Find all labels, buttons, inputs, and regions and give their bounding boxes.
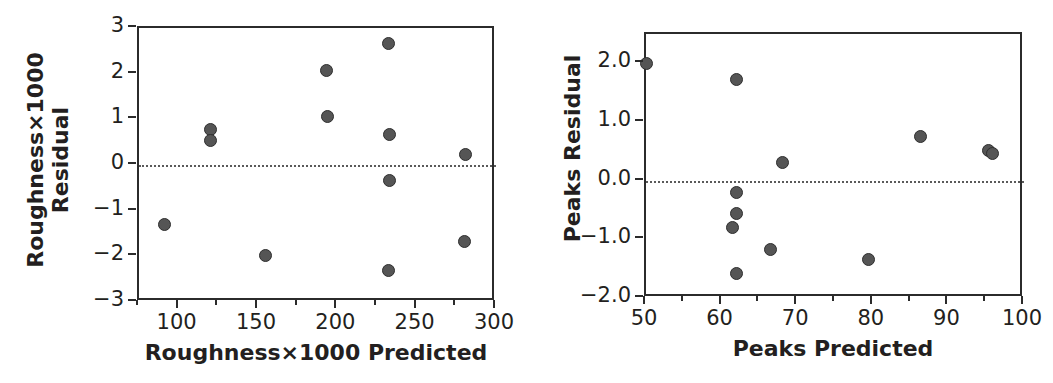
y-axis-title-peaks: Peaks Residual (560, 0, 585, 309)
x-axis-title-peaks: Peaks Predicted (533, 337, 1053, 361)
x-tick (176, 300, 178, 308)
y-tick (128, 299, 136, 301)
y-tick-label: −2.0 (539, 285, 631, 306)
y-tick (635, 178, 643, 180)
residual-plot-figure: 3210−1−2−3100150200250300 Roughness×1000… (0, 0, 1053, 383)
x-tick (1021, 296, 1023, 304)
x-tick (870, 296, 872, 304)
y-tick (635, 236, 643, 238)
y-tick (128, 116, 136, 118)
y-tick-label: 0.0 (539, 168, 631, 189)
data-point (321, 110, 334, 123)
data-point (726, 221, 739, 234)
x-axis-title-roughness: Roughness×1000 Predicted (16, 341, 616, 365)
y-tick-label: 2.0 (539, 50, 631, 71)
data-point (383, 174, 396, 187)
data-point (458, 235, 471, 248)
y-axis-title-line1: Roughness×1000 (23, 52, 48, 268)
plot-area-roughness (137, 26, 494, 300)
x-tick-minor (681, 296, 683, 301)
data-point (382, 264, 395, 277)
zero-reference-line (139, 165, 496, 167)
x-tick-minor (295, 300, 297, 305)
data-point (459, 148, 472, 161)
data-point (730, 186, 743, 199)
x-tick-minor (374, 300, 376, 305)
x-tick-minor (756, 296, 758, 301)
x-tick-label: 100 (972, 308, 1053, 329)
y-tick (128, 71, 136, 73)
y-tick (635, 295, 643, 297)
y-tick (128, 25, 136, 27)
x-tick (334, 300, 336, 308)
y-tick (635, 60, 643, 62)
x-tick (643, 296, 645, 304)
x-tick (493, 300, 495, 308)
x-tick-minor (215, 300, 217, 305)
x-tick (719, 296, 721, 304)
y-tick (128, 253, 136, 255)
y-tick-label: −1.0 (539, 226, 631, 247)
data-point (914, 130, 927, 143)
x-tick-minor (983, 296, 985, 301)
data-point (986, 147, 999, 160)
data-point (862, 253, 875, 266)
x-tick-minor (136, 300, 138, 305)
data-point (730, 207, 743, 220)
x-tick-minor (832, 296, 834, 301)
y-tick (128, 162, 136, 164)
y-axis-title-roughness: Roughness×1000 Residual (23, 0, 73, 320)
chart-panel-peaks: 2.01.00.0−1.0−2.05060708090100 Peaks Pre… (530, 0, 1053, 383)
chart-panel-roughness: 3210−1−2−3100150200250300 Roughness×1000… (0, 0, 530, 383)
data-point (320, 64, 333, 77)
data-point (158, 218, 171, 231)
x-tick (794, 296, 796, 304)
x-tick (255, 300, 257, 308)
data-point (204, 134, 217, 147)
x-tick-minor (453, 300, 455, 305)
data-point (259, 249, 272, 262)
y-tick (635, 119, 643, 121)
x-tick (414, 300, 416, 308)
data-point (382, 37, 395, 50)
data-point (640, 57, 653, 70)
x-tick (945, 296, 947, 304)
y-axis-title-line2: Residual (48, 0, 73, 320)
plot-area-peaks (644, 32, 1022, 296)
x-tick-label: 300 (444, 312, 544, 333)
data-point (730, 73, 743, 86)
data-point (776, 156, 789, 169)
x-tick-minor (908, 296, 910, 301)
y-tick (128, 208, 136, 210)
y-tick-label: 1.0 (539, 109, 631, 130)
data-point (730, 267, 743, 280)
data-point (764, 243, 777, 256)
zero-reference-line (646, 181, 1024, 183)
data-point (383, 128, 396, 141)
